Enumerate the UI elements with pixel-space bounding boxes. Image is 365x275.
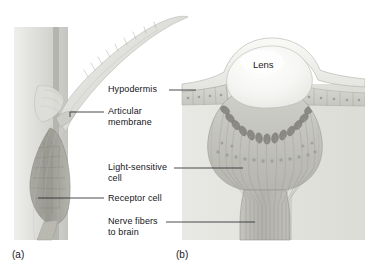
label-lens: Lens bbox=[253, 59, 274, 70]
biological-figure: Hypodermis Articular membrane Light-sens… bbox=[0, 0, 365, 275]
label-nerve-fibers-line1: Nerve fibers bbox=[108, 216, 158, 227]
label-light-sensitive-cell-line2: cell bbox=[108, 173, 122, 184]
panel-a-artwork bbox=[14, 16, 188, 240]
label-receptor-cell: Receptor cell bbox=[108, 193, 162, 204]
nerve-fiber-bundle bbox=[240, 190, 290, 240]
label-hypodermis: Hypodermis bbox=[108, 84, 157, 95]
figure-artwork bbox=[0, 0, 365, 275]
label-nerve-fibers-line2: to brain bbox=[108, 227, 139, 238]
label-articular-membrane-line2: membrane bbox=[108, 117, 152, 128]
panel-letter-b: (b) bbox=[176, 249, 188, 260]
label-light-sensitive-cell-line1: Light-sensitive bbox=[108, 162, 167, 173]
label-articular-membrane-line1: Articular bbox=[108, 106, 142, 117]
panel-letter-a: (a) bbox=[12, 249, 24, 260]
